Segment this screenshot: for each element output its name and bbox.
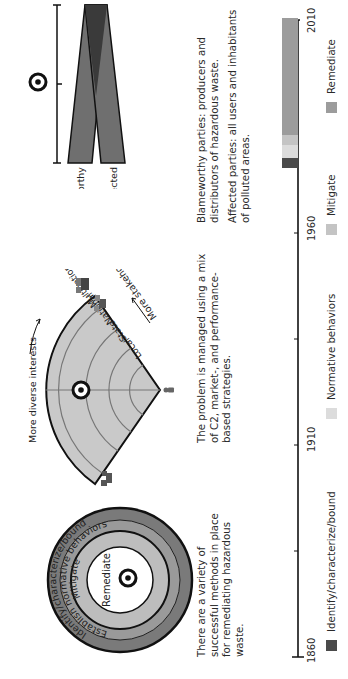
figure-stage: Identify/characterize/bound Establish no… — [0, 0, 348, 679]
segment-mitigate — [282, 135, 298, 145]
stakeholder-fan-diagram: Local State National Multinational More … — [0, 269, 200, 499]
legend-swatch — [326, 224, 337, 235]
target-icon — [73, 382, 89, 398]
blameworthy-caption: Blameworthy parties: producers and distr… — [196, 0, 221, 223]
fan-caption: The problem is managed using a mix of C2… — [196, 243, 234, 443]
legend-normative: Normative behaviors — [326, 294, 337, 419]
blameworthy-label: Blameworthy — [75, 167, 86, 189]
legend-mitigate: Mitigate — [326, 175, 337, 235]
person-icon — [164, 388, 175, 393]
onion-caption: There are a variety of successful method… — [196, 482, 246, 657]
group-icon-small — [101, 471, 112, 486]
parties-diagram: Blameworthy Affected — [0, 0, 200, 189]
tick-1860: 1860 — [306, 638, 317, 663]
concentric-rings-diagram: Identify/characterize/bound Establish no… — [0, 479, 200, 679]
legend-swatch — [326, 640, 337, 651]
target-icon — [30, 74, 46, 90]
tick-2010: 2010 — [306, 8, 317, 33]
legend-swatch — [326, 408, 337, 419]
tick-1960: 1960 — [306, 216, 317, 241]
tick-1910: 1910 — [306, 427, 317, 452]
more-diverse-interests-label: More diverse interests — [27, 337, 38, 443]
legend-swatch — [326, 102, 337, 113]
timeline-chart — [270, 0, 310, 679]
target-icon — [120, 570, 136, 586]
affected-label: Affected — [108, 167, 119, 189]
ring-label-remediate: Remediate — [101, 553, 112, 607]
legend-remediate: Remediate — [326, 39, 337, 113]
segment-identify — [282, 158, 298, 168]
affected-caption: Affected parties: all users and inhabita… — [227, 0, 252, 223]
legend-identify: Identify/characterize/bound — [326, 491, 337, 651]
segment-remediate — [282, 18, 298, 135]
scale-bar — [53, 5, 62, 163]
segment-normative — [282, 145, 298, 158]
